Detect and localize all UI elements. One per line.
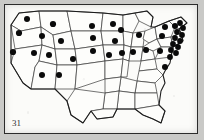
marker-dot [167, 54, 173, 60]
marker-dot [168, 47, 174, 53]
marker-dot [46, 52, 52, 58]
marker-dot [179, 32, 185, 38]
marker-dot [157, 48, 163, 54]
figure-number-label: 31 [12, 119, 21, 128]
marker-dot [112, 38, 118, 44]
marker-dot [130, 49, 136, 55]
marker-dot [143, 47, 149, 53]
marker-dot [173, 50, 179, 56]
marker-dot [118, 27, 124, 33]
map-stage [5, 5, 197, 133]
marker-dot [90, 35, 96, 41]
marker-dot [177, 20, 183, 26]
marker-dot [58, 38, 64, 44]
marker-dot [172, 23, 178, 29]
marker-dot [162, 24, 168, 30]
marker-dot [50, 21, 56, 27]
marker-dot [119, 50, 125, 56]
marker-dot [16, 30, 22, 36]
figure-frame: 31 [4, 4, 198, 134]
marker-dot [24, 16, 30, 22]
marker-dot [39, 33, 45, 39]
marker-dot [31, 50, 37, 56]
marker-dot [162, 64, 168, 70]
marker-dot [177, 38, 183, 44]
marker-dot [39, 72, 45, 78]
marker-dot [90, 48, 96, 54]
marker-dot [70, 56, 76, 62]
marker-dot [174, 29, 180, 35]
marker-dot [180, 25, 186, 31]
us-distribution-map [5, 5, 197, 133]
marker-dot [89, 23, 95, 29]
marker-dot [159, 33, 165, 39]
marker-dot [175, 44, 181, 50]
marker-dot [10, 49, 16, 55]
marker-dot [56, 72, 62, 78]
marker-dot [136, 32, 142, 38]
marker-dot [172, 35, 178, 41]
marker-dot [106, 52, 112, 58]
marker-dot [110, 21, 116, 27]
marker-dot [170, 41, 176, 47]
